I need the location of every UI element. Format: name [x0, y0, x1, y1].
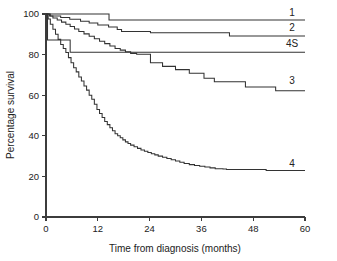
- survival-curve-4: [46, 14, 305, 171]
- y-axis-title: Percentage survival: [5, 71, 16, 159]
- y-axis-tick-labels: 020406080100: [23, 8, 39, 222]
- series-label-3: 3: [289, 75, 295, 86]
- survival-chart: 020406080100 01224364860 124S34 Percenta…: [0, 0, 337, 261]
- x-tick-label: 0: [43, 223, 48, 234]
- chart-canvas: 020406080100 01224364860 124S34 Percenta…: [0, 0, 337, 261]
- x-axis-title: Time from diagnosis (months): [109, 243, 241, 254]
- x-axis-tick-labels: 01224364860: [43, 223, 310, 234]
- y-tick-label: 20: [28, 171, 39, 182]
- x-axis-ticks: [46, 217, 305, 221]
- x-tick-label: 48: [248, 223, 259, 234]
- y-tick-label: 100: [23, 8, 39, 19]
- x-tick-label: 60: [300, 223, 311, 234]
- y-tick-label: 60: [28, 90, 39, 101]
- x-tick-label: 24: [144, 223, 155, 234]
- x-tick-label: 12: [93, 223, 104, 234]
- y-tick-label: 80: [28, 49, 39, 60]
- x-tick-label: 36: [196, 223, 207, 234]
- series-label-1: 1: [289, 7, 295, 18]
- series-label-4s: 4S: [286, 38, 299, 49]
- y-tick-label: 40: [28, 130, 39, 141]
- y-axis-ticks: [42, 14, 46, 217]
- survival-curve-1: [46, 14, 305, 20]
- survival-curves: [46, 14, 305, 171]
- series-label-4: 4: [289, 158, 295, 169]
- survival-curve-2: [46, 14, 305, 36]
- series-label-2: 2: [289, 22, 295, 33]
- series-end-labels: 124S34: [286, 7, 299, 168]
- y-tick-label: 0: [34, 211, 39, 222]
